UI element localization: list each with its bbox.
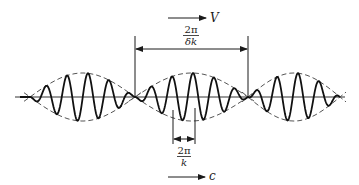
group-velocity-label: V: [210, 11, 220, 25]
group-length-numerator: 2π: [185, 24, 198, 35]
wavelength-numerator: 2π: [178, 145, 191, 156]
phase-velocity-label: c: [209, 169, 216, 183]
wave-packet-diagram: 2π δk V 2π k c: [0, 0, 359, 185]
wavelength-denominator: k: [181, 157, 187, 168]
group-length-denominator: δk: [185, 36, 197, 47]
